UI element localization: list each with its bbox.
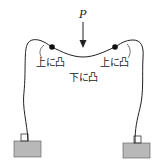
middle-convex-down-label: 下に凸 <box>69 73 98 83</box>
right-inflection-dot <box>112 44 118 50</box>
left-support-block <box>14 141 41 157</box>
left-base-square <box>21 134 28 141</box>
left-inflection-dot <box>49 44 55 50</box>
right-curvature-arc <box>127 44 130 58</box>
deformed-frame-line <box>24 40 144 143</box>
frame-diagram: P 上に凸 上に凸 下に凸 <box>0 0 161 165</box>
load-label: P <box>79 9 86 20</box>
left-convex-up-label: 上に凸 <box>36 58 65 68</box>
load-arrow-head-icon <box>80 40 87 48</box>
right-convex-up-label: 上に凸 <box>100 58 129 68</box>
right-support-block <box>123 143 150 158</box>
